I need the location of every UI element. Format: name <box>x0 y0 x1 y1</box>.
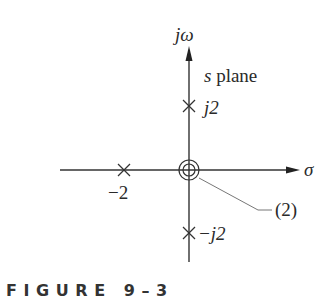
zero-multiplicity-label: (2) <box>275 199 297 221</box>
multiplicity-leader-line <box>199 178 272 210</box>
real-axis-arrow-icon <box>286 167 300 174</box>
imag-axis-label: jω <box>172 24 194 45</box>
real-axis-label: σ <box>304 159 314 180</box>
plane-label: s plane <box>204 65 257 86</box>
imag-axis-arrow-icon <box>186 46 193 61</box>
pole-zero-diagram: jω σ s plane j2 −2 −j2 (2) F I G U R E 9… <box>0 0 331 305</box>
pole-minus2-label: −2 <box>108 182 128 203</box>
pole-minus-j2-label: −j2 <box>198 223 226 244</box>
pole-j2-label: j2 <box>201 97 219 118</box>
figure-caption: F I G U R E 9 – 3 <box>6 281 168 300</box>
